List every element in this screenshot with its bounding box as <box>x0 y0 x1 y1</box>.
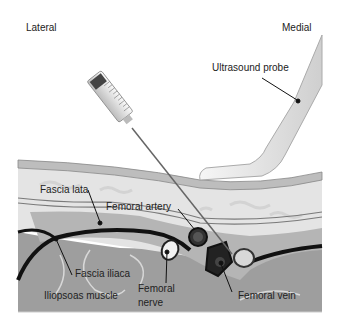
lymph-node <box>234 249 254 267</box>
label-femoral-vein: Femoral vein <box>238 290 296 301</box>
anatomy-illustration <box>0 0 338 326</box>
label-iliopsoas-muscle: Iliopsoas muscle <box>44 290 118 301</box>
label-femoral-nerve-2: nerve <box>138 297 163 308</box>
syringe <box>87 70 137 127</box>
ultrasound-probe <box>200 35 322 180</box>
label-lateral: Lateral <box>26 22 57 33</box>
label-femoral-artery: Femoral artery <box>106 201 171 212</box>
label-ultrasound-probe: Ultrasound probe <box>212 62 289 73</box>
label-fascia-lata: Fascia lata <box>40 184 88 195</box>
label-medial: Medial <box>282 22 311 33</box>
label-femoral-nerve-1: Femoral <box>138 283 175 294</box>
label-fascia-iliaca: Fascia iliaca <box>75 268 130 279</box>
